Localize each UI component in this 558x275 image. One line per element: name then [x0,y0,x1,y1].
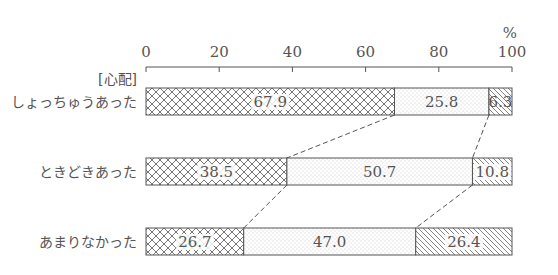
value-label: 50.7 [363,163,396,181]
tick-label: 20 [210,43,229,61]
connector-line [472,115,488,158]
stacked-bar-chart: 020406080100% [心配]しょっちゅうあった67.925.86.3とき… [0,0,558,275]
connector-line [287,115,395,158]
value-label: 67.9 [254,93,287,111]
group-label: [心配] [98,71,137,87]
unit-label: % [503,24,517,42]
category-label: あまりなかった [39,234,137,250]
connector-line [416,185,473,228]
value-label: 25.8 [425,93,458,111]
value-label: 47.0 [313,233,346,251]
value-label: 26.7 [178,233,211,251]
connector-line [244,185,287,228]
category-label: ときどきあった [39,164,137,180]
tick-label: 0 [141,43,151,61]
category-label: しょっちゅうあった [11,94,137,110]
value-label: 26.4 [447,233,480,251]
value-label: 10.8 [476,163,509,181]
tick-label: 100 [498,43,527,61]
value-label: 6.3 [489,93,513,111]
tick-label: 40 [283,43,302,61]
x-axis: 020406080100% [141,24,526,72]
value-label: 38.5 [200,163,233,181]
tick-label: 80 [429,43,448,61]
tick-label: 60 [356,43,375,61]
